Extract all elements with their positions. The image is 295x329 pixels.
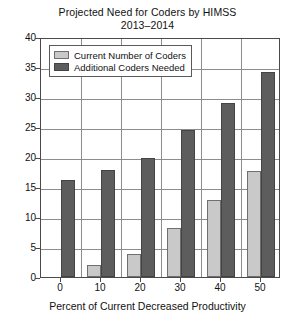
y-tick-label: 40 <box>6 33 36 43</box>
bar <box>101 170 115 277</box>
legend-swatch-light-icon <box>54 51 69 59</box>
y-tick-label: 25 <box>6 123 36 133</box>
x-tick-mark <box>100 278 101 282</box>
bar <box>221 103 235 277</box>
y-tick-label: 10 <box>6 213 36 223</box>
x-axis-label: Percent of Current Decreased Productivit… <box>0 300 295 312</box>
plot-inner: Current Number of Coders Additional Code… <box>41 39 279 277</box>
legend-item-additional-coders-needed: Additional Coders Needed <box>54 61 186 73</box>
chart-title-line-2: 2013–2014 <box>0 19 295 32</box>
bar <box>61 180 75 277</box>
x-tick-mark <box>260 278 261 282</box>
x-tick-label: 40 <box>200 282 240 293</box>
y-tick-label: 0 <box>6 273 36 283</box>
x-tick-mark <box>180 278 181 282</box>
y-tick-label: 20 <box>6 153 36 163</box>
chart-legend: Current Number of Coders Additional Code… <box>49 45 192 77</box>
x-tick-label: 30 <box>160 282 200 293</box>
bar <box>167 228 181 277</box>
x-tick-label: 0 <box>40 282 80 293</box>
y-tick-label: 35 <box>6 63 36 73</box>
bar <box>87 265 101 277</box>
x-tick-mark <box>220 278 221 282</box>
chart-title-line-1: Projected Need for Coders by HIMSS <box>0 6 295 19</box>
legend-label-2: Additional Coders Needed <box>74 62 185 73</box>
bar <box>207 200 221 277</box>
bar-group <box>241 39 281 277</box>
bar-group <box>201 39 241 277</box>
y-tick-mark <box>35 278 40 279</box>
bar <box>127 254 141 277</box>
bar <box>141 158 155 277</box>
x-tick-label: 20 <box>120 282 160 293</box>
x-tick-label: 10 <box>80 282 120 293</box>
bar <box>261 72 275 277</box>
legend-item-current-number-of-coders: Current Number of Coders <box>54 49 186 61</box>
plot-area: Current Number of Coders Additional Code… <box>40 38 280 278</box>
y-tick-label: 15 <box>6 183 36 193</box>
bar <box>181 130 195 277</box>
y-tick-label: 30 <box>6 93 36 103</box>
x-tick-mark <box>140 278 141 282</box>
chart-title: Projected Need for Coders by HIMSS 2013–… <box>0 6 295 32</box>
x-tick-label: 50 <box>240 282 280 293</box>
y-tick-label: 5 <box>6 243 36 253</box>
legend-label-1: Current Number of Coders <box>74 50 186 61</box>
chart-figure: Projected Need for Coders by HIMSS 2013–… <box>0 0 295 329</box>
x-tick-mark <box>60 278 61 282</box>
legend-swatch-dark-icon <box>54 63 69 71</box>
bar <box>247 171 261 277</box>
